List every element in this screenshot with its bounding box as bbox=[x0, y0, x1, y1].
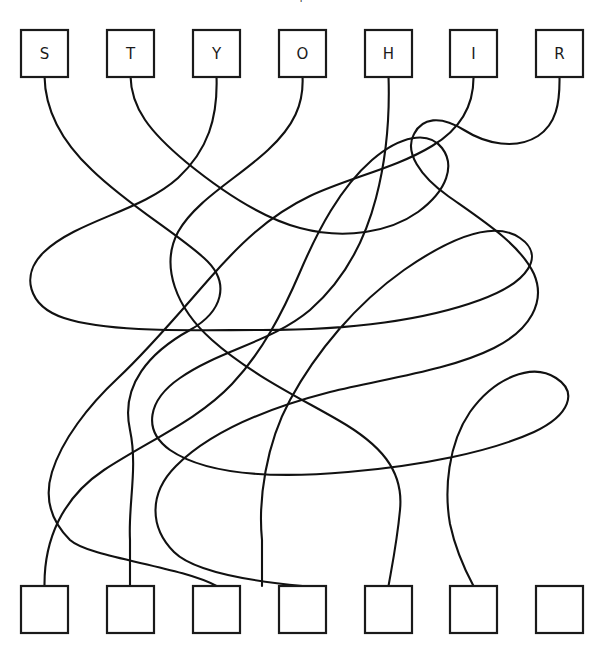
bottom-box-7[interactable] bbox=[536, 586, 583, 633]
bottom-box-3[interactable] bbox=[193, 586, 240, 633]
top-box-2-label: T bbox=[125, 45, 136, 63]
top-box-1-label: S bbox=[40, 45, 50, 63]
bottom-box-1[interactable] bbox=[21, 586, 68, 633]
top-box-5-label: H bbox=[383, 45, 394, 63]
puzzle-canvas: STYOHIR bbox=[0, 0, 602, 653]
bottom-boxes-group bbox=[21, 586, 583, 633]
top-box-3-label: Y bbox=[211, 45, 222, 63]
bottom-box-5[interactable] bbox=[365, 586, 412, 633]
top-box-6-label: I bbox=[471, 45, 475, 63]
top-box-7-label: R bbox=[554, 45, 564, 63]
bottom-box-6[interactable] bbox=[450, 586, 497, 633]
tangled-lines-puzzle: | STYOHIR bbox=[0, 0, 602, 653]
bottom-box-2[interactable] bbox=[107, 586, 154, 633]
line-from-Y[interactable] bbox=[30, 76, 532, 586]
top-box-4-label: O bbox=[297, 45, 309, 63]
tangled-lines-group bbox=[30, 76, 568, 586]
bottom-box-4[interactable] bbox=[279, 586, 326, 633]
top-boxes-group: STYOHIR bbox=[21, 30, 583, 77]
